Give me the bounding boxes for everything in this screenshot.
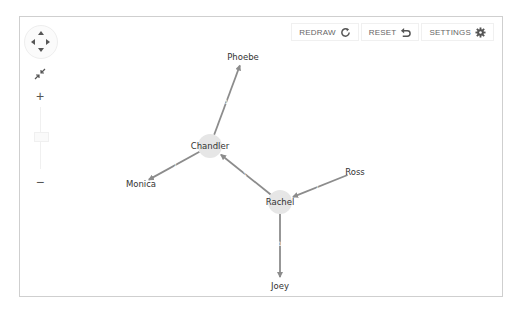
- node-joey[interactable]: Joey: [270, 281, 289, 291]
- edge-label: 1: [278, 240, 282, 247]
- edges: 11111: [149, 65, 348, 277]
- edge-label: 1: [225, 98, 229, 105]
- node-label: Joey: [270, 281, 289, 291]
- node-label: Rachel: [266, 197, 295, 207]
- node-label: Monica: [126, 179, 156, 189]
- node-monica[interactable]: Monica: [126, 179, 156, 189]
- edge-label: 1: [316, 183, 320, 190]
- node-label: Ross: [345, 167, 365, 177]
- node-ross[interactable]: Ross: [345, 167, 365, 177]
- node-label: Phoebe: [227, 52, 259, 62]
- edge-label: 1: [243, 170, 247, 177]
- node-chandler[interactable]: Chandler: [191, 134, 230, 158]
- node-label: Chandler: [191, 141, 230, 151]
- edge-ross-rachel[interactable]: [293, 175, 348, 197]
- network-graph[interactable]: 11111 PhoebeChandlerMonicaRachelRossJoey: [0, 0, 525, 311]
- node-phoebe[interactable]: Phoebe: [227, 52, 259, 62]
- edge-label: 1: [174, 161, 178, 168]
